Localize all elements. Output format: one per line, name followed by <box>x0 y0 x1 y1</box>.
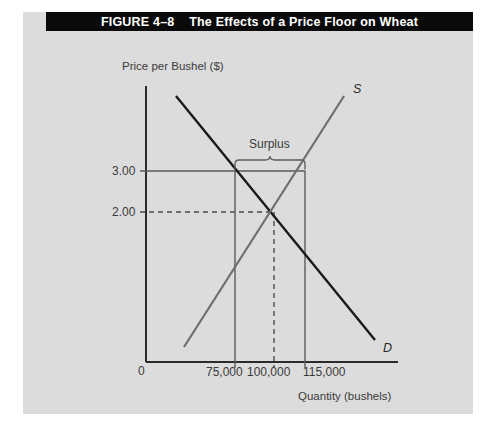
y-axis-label: Price per Bushel ($) <box>122 60 224 72</box>
x-tick-label-75000: 75,000 <box>206 365 243 379</box>
x-tick-label-115000: 115,000 <box>303 365 346 379</box>
surplus-annotation-label: Surplus <box>249 137 290 151</box>
figure-panel <box>23 12 473 414</box>
supply-curve-label: S <box>353 82 361 96</box>
figure-root: FIGURE 4–8 The Effects of a Price Floor … <box>0 0 495 429</box>
y-tick-label-2-00: 2.00 <box>112 205 135 219</box>
x-axis-label: Quantity (bushels) <box>298 390 391 402</box>
figure-title-bar: FIGURE 4–8 The Effects of a Price Floor … <box>46 12 473 31</box>
figure-title-text: FIGURE 4–8 The Effects of a Price Floor … <box>101 15 418 29</box>
demand-curve-label: D <box>383 341 392 355</box>
origin-label: 0 <box>138 364 145 378</box>
y-tick-label-3-00: 3.00 <box>112 164 135 178</box>
x-tick-label-100000: 100,000 <box>247 365 290 379</box>
